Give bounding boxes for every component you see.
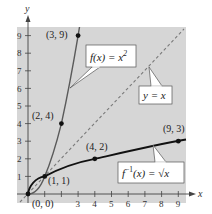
- svg-text:(1, 1): (1, 1): [48, 175, 70, 187]
- x-axis-arrow-icon: [189, 192, 196, 197]
- point-2-4: [59, 121, 64, 126]
- x-axis-label: x: [197, 188, 203, 199]
- svg-text:3: 3: [76, 199, 81, 209]
- svg-text:8: 8: [17, 48, 22, 58]
- svg-text:(2, 4): (2, 4): [32, 110, 54, 122]
- svg-text:f(x) = x2: f(x) = x2: [90, 49, 127, 64]
- svg-text:4: 4: [92, 199, 97, 209]
- svg-text:(4, 2): (4, 2): [86, 141, 108, 153]
- svg-text:5: 5: [17, 101, 22, 111]
- svg-text:8: 8: [159, 199, 164, 209]
- svg-text:3: 3: [17, 136, 22, 146]
- svg-text:2: 2: [17, 154, 22, 164]
- y-axis-label: y: [24, 3, 30, 14]
- svg-text:(3, 9): (3, 9): [46, 29, 68, 41]
- point-4-2: [92, 156, 97, 161]
- svg-text:y = x: y = x: [142, 89, 166, 101]
- point-0-0: [26, 192, 31, 197]
- svg-text:9: 9: [176, 199, 181, 209]
- svg-text:(0, 0): (0, 0): [32, 198, 54, 210]
- chart: x y 3 4 5 6 7 8 9 1 2 3 4 5: [0, 0, 212, 214]
- svg-text:6: 6: [17, 84, 22, 94]
- y-tick-labels: 1 2 3 4 5 6 7 8 9: [17, 31, 22, 182]
- svg-text:1: 1: [17, 172, 22, 182]
- y-axis-arrow-icon: [26, 15, 31, 22]
- svg-text:9: 9: [17, 31, 22, 41]
- svg-text:5: 5: [109, 199, 114, 209]
- point-3-9: [76, 33, 81, 38]
- svg-text:7: 7: [142, 199, 147, 209]
- svg-text:4: 4: [17, 119, 22, 129]
- svg-text:7: 7: [17, 66, 22, 76]
- svg-text:(9, 3): (9, 3): [163, 123, 185, 135]
- point-1-1: [42, 174, 47, 179]
- svg-text:6: 6: [126, 199, 131, 209]
- point-9-3: [176, 139, 181, 144]
